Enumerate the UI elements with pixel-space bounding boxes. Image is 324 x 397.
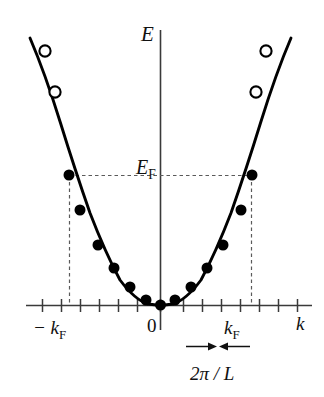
filled-state-marker — [170, 295, 181, 306]
filled-state-marker — [247, 170, 258, 181]
filled-state-marker — [141, 295, 152, 306]
filled-state-marker — [186, 282, 197, 293]
negative-fermi-wavevector-label: − kF — [33, 318, 66, 342]
fermi-energy-subscript: F — [148, 167, 156, 182]
filled-state-marker — [125, 282, 136, 293]
dispersion-diagram: E EF − kF kF 0 k 2π / L — [0, 0, 324, 397]
empty-state-marker — [250, 86, 261, 97]
positive-fermi-wavevector-label: kF — [224, 318, 240, 342]
filled-state-marker — [75, 205, 86, 216]
level-spacing-arrows — [186, 343, 250, 351]
empty-state-markers — [39, 45, 271, 97]
filled-state-marker — [202, 263, 213, 274]
fermi-energy-label: EF — [136, 157, 156, 182]
y-axis-label: E — [141, 24, 154, 45]
negative-fermi-wavevector-subscript: F — [59, 327, 66, 342]
filled-state-marker — [236, 205, 247, 216]
filled-state-marker — [218, 240, 229, 251]
positive-fermi-wavevector-subscript: F — [232, 327, 239, 342]
spacing-arrow-left-head — [208, 343, 217, 351]
filled-state-marker-origin — [155, 300, 166, 311]
empty-state-marker — [39, 45, 50, 56]
fermi-energy-symbol: E — [136, 156, 148, 178]
filled-state-marker — [64, 170, 75, 181]
negative-fermi-wavevector-symbol: − k — [33, 317, 59, 338]
spacing-arrow-right-head — [219, 343, 228, 351]
x-axis-label: k — [296, 314, 304, 333]
filled-state-marker — [109, 263, 120, 274]
empty-state-marker — [260, 45, 271, 56]
origin-label: 0 — [147, 316, 157, 335]
level-spacing-label: 2π / L — [190, 364, 234, 383]
empty-state-marker — [49, 86, 60, 97]
filled-state-marker — [93, 240, 104, 251]
